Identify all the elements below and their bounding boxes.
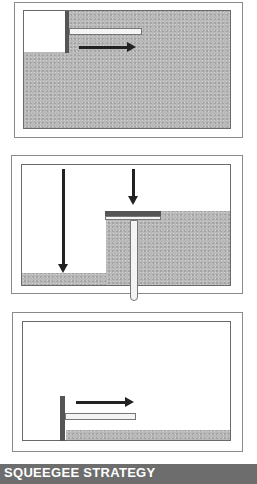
panel-2-long-arrow-down-icon	[62, 169, 65, 267]
panel-3-squeegee-handle	[65, 413, 136, 420]
panel-2-wet-left-strip	[22, 273, 106, 285]
panel-1-cleared-area	[24, 11, 65, 52]
panel-3-wet-bottom-strip	[66, 430, 230, 440]
panel-2-short-arrow-down-icon	[132, 169, 135, 198]
panel-3-arrow-right-icon	[76, 401, 126, 404]
panel-3-window	[22, 321, 231, 441]
panel-3-arrow-head-icon	[125, 397, 134, 407]
caption-title: SQUEEGEE STRATEGY	[4, 465, 156, 480]
caption-bar: SQUEEGEE STRATEGY	[0, 464, 257, 484]
panel-1-arrow-right-icon	[79, 46, 128, 49]
panel-2-short-arrow-head-icon	[128, 196, 138, 205]
panel-2-squeegee-handle	[130, 220, 138, 301]
panel-2-long-arrow-head-icon	[58, 264, 68, 273]
panel-1-arrow-head-icon	[127, 42, 136, 52]
panel-2-wet-right-area	[106, 211, 230, 285]
panel-1-squeegee-handle	[69, 28, 142, 35]
